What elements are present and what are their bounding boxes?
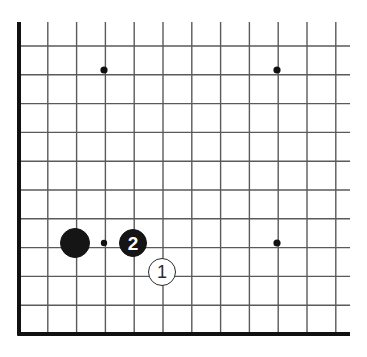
black-stone[interactable]: [60, 228, 90, 258]
black-stone-move-2-label: 2: [128, 234, 139, 253]
white-stone-move-1-label: 1: [157, 263, 167, 281]
grid-lines: [19, 22, 350, 334]
white-stone-move-1[interactable]: 1: [148, 258, 176, 286]
star-point-top-left-icon: [100, 66, 107, 73]
star-point-top-right-icon: [273, 66, 280, 73]
star-point-bottom-left-icon: [101, 240, 107, 246]
black-stone-move-2[interactable]: 2: [119, 229, 147, 257]
star-point-bottom-right-icon: [273, 239, 280, 246]
go-board-grid: [0, 0, 367, 357]
star-points-group: [100, 66, 280, 246]
board-edge-lines: [18, 22, 351, 336]
go-board-diagram: 21: [0, 0, 367, 357]
